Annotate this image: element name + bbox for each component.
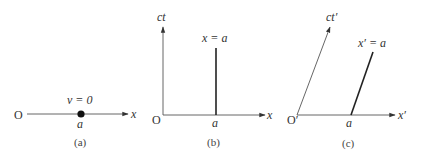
- panel-b: ct x = a O a x (b): [152, 10, 273, 149]
- panel-c: ct′ x′ = a O′ a x′ (c): [287, 10, 406, 150]
- point-label: a: [77, 117, 83, 131]
- worldline-label: x′ = a: [357, 36, 386, 50]
- x-axis-label: x: [130, 107, 137, 121]
- velocity-label: v = 0: [67, 93, 92, 107]
- point-label: a: [346, 116, 352, 130]
- caption: (b): [207, 136, 220, 149]
- point-label: a: [212, 116, 218, 130]
- origin-label: O: [152, 113, 161, 127]
- origin-label: O′: [287, 113, 299, 127]
- worldline: [351, 52, 373, 115]
- ct-prime-axis-label: ct′: [326, 10, 338, 24]
- panel-a: O x a v = 0 (a): [14, 93, 137, 149]
- ct-axis-label: ct: [157, 10, 166, 24]
- worldline-label: x = a: [201, 31, 227, 45]
- x-axis-label: x: [266, 108, 273, 122]
- x-prime-axis-label: x′: [397, 108, 406, 122]
- caption: (a): [74, 136, 87, 149]
- spacetime-diagram-figure: O x a v = 0 (a) ct x = a O a x (b) ct′ x…: [0, 0, 424, 162]
- origin-label: O: [14, 108, 23, 122]
- ct-prime-axis: [297, 27, 330, 115]
- caption: (c): [342, 137, 355, 150]
